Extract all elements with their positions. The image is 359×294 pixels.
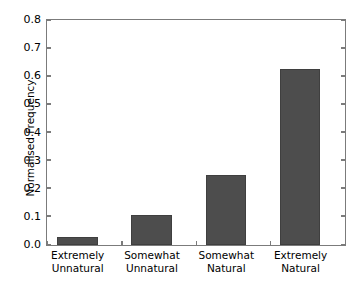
y-tick-mark [341,19,346,20]
y-tick-label: 0.4 [7,127,41,138]
x-tick-mark [196,241,197,246]
y-tick-mark [47,215,52,216]
y-tick-label: 0.0 [7,239,41,250]
plot-inner [47,20,345,245]
x-tick-label-line: Natural [253,262,349,275]
bar [131,215,171,245]
y-tick-mark [47,75,52,76]
y-tick-mark [47,47,52,48]
x-tick-mark [47,241,48,246]
y-tick-label: 0.1 [7,211,41,222]
y-tick-mark [341,159,346,160]
y-tick-mark [341,244,346,245]
y-tick-label: 0.6 [7,70,41,81]
bar-chart-figure: Normalised Frequency 0.00.10.20.30.40.50… [0,0,359,294]
x-tick-mark [270,241,271,246]
y-tick-mark [341,131,346,132]
y-tick-mark [47,19,52,20]
bar [206,175,246,245]
bar [280,69,320,245]
y-tick-label: 0.3 [7,155,41,166]
x-tick-mark [121,241,122,246]
bar [57,237,97,245]
y-tick-label: 0.7 [7,42,41,53]
y-tick-mark [47,103,52,104]
y-tick-mark [47,187,52,188]
plot-area [46,19,346,246]
y-tick-mark [341,103,346,104]
y-tick-label: 0.2 [7,183,41,194]
y-tick-label: 0.8 [7,14,41,25]
y-tick-mark [341,47,346,48]
y-tick-mark [47,131,52,132]
y-tick-mark [47,159,52,160]
x-tick-label: ExtremelyNatural [253,249,349,274]
y-tick-mark [341,215,346,216]
y-tick-mark [341,75,346,76]
x-tick-label-line: Extremely [253,249,349,262]
y-tick-mark [341,187,346,188]
y-tick-label: 0.5 [7,98,41,109]
